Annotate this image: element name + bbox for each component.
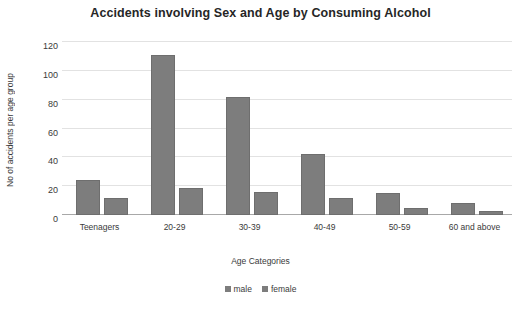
- plot-area: [62, 42, 512, 215]
- category-label: 60 and above: [437, 222, 512, 232]
- category-label: 20-29: [137, 222, 212, 232]
- category-label: 30-39: [212, 222, 287, 232]
- bar-group: [62, 42, 137, 215]
- bar-group: [437, 42, 512, 215]
- bar-male-2: [226, 97, 250, 215]
- bar-male-4: [376, 193, 400, 215]
- y-axis-tick-labels: 020406080100120: [18, 42, 58, 215]
- legend-swatch-icon: [262, 286, 268, 292]
- chart-legend: malefemale: [0, 284, 521, 294]
- bar-chart-figure: Accidents involving Sex and Age by Consu…: [0, 0, 521, 309]
- bar-female-0: [104, 198, 128, 215]
- legend-label: female: [271, 284, 297, 294]
- bar-group: [362, 42, 437, 215]
- legend-item-male[interactable]: male: [225, 284, 252, 294]
- bar-female-3: [329, 198, 353, 215]
- bar-group: [137, 42, 212, 215]
- bar-female-5: [479, 211, 503, 215]
- bar-male-3: [301, 154, 325, 215]
- bars-layer: [62, 42, 512, 215]
- legend-item-female[interactable]: female: [262, 284, 297, 294]
- bar-female-1: [179, 188, 203, 215]
- chart-title: Accidents involving Sex and Age by Consu…: [0, 6, 521, 20]
- x-axis-title: Age Categories: [0, 256, 521, 266]
- legend-label: male: [234, 284, 252, 294]
- bar-female-4: [404, 208, 428, 215]
- bar-male-5: [451, 203, 475, 215]
- category-label: 40-49: [287, 222, 362, 232]
- category-label: Teenagers: [62, 222, 137, 232]
- bar-female-2: [254, 192, 278, 215]
- x-axis-category-labels: Teenagers20-2930-3940-4950-5960 and abov…: [62, 222, 512, 238]
- y-axis-title: No of accidents per age group: [3, 50, 17, 210]
- bar-male-0: [76, 180, 100, 215]
- bar-group: [287, 42, 362, 215]
- legend-swatch-icon: [225, 286, 231, 292]
- bar-group: [212, 42, 287, 215]
- bar-male-1: [151, 55, 175, 215]
- category-label: 50-59: [362, 222, 437, 232]
